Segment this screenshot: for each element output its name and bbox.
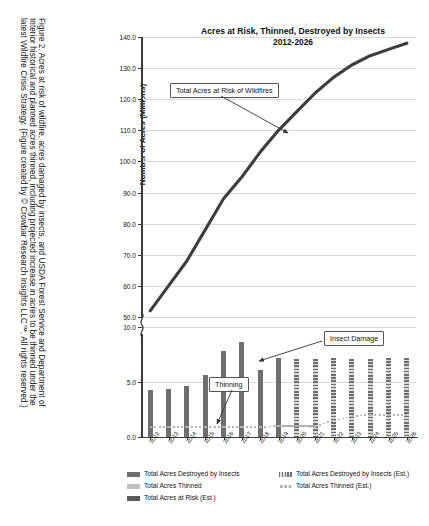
chart-legend: Total Acres Destroyed by InsectsTotal Ac…: [127, 470, 423, 516]
legend-item-2: Total Acres Destroyed by Insects (Est.): [279, 470, 409, 478]
legend-label: Total Acres Thinned (Est.): [296, 482, 371, 490]
legend-swatch-icon: [279, 484, 292, 489]
legend-swatch-icon: [127, 484, 140, 489]
legend-label: Total Acres Thinned: [144, 482, 202, 490]
legend-item-3: Total Acres Thinned: [127, 482, 202, 490]
legend-label: Total Acres Destroyed by Insects: [144, 470, 240, 478]
legend-label: Total Acres at Risk (Est.): [144, 494, 216, 502]
caption-line-3: latest Wildfire Crisis Strategy. (Figure…: [19, 18, 28, 408]
legend-label: Total Acres Destroyed by Insects (Est.): [296, 470, 409, 478]
legend-item-4: Total Acres Thinned (Est.): [279, 482, 371, 490]
caption-line-1: Figure 2. Acres at risk of wildfire, acr…: [37, 18, 46, 407]
figure-root: Figure 2. Acres at risk of wildfire, acr…: [0, 0, 429, 526]
legend-swatch-icon: [127, 472, 140, 477]
annotation-leader-lines: [108, 10, 429, 480]
legend-item-1: Total Acres Destroyed by Insects: [127, 470, 240, 478]
figure-caption: Figure 2. Acres at risk of wildfire, acr…: [0, 0, 108, 526]
legend-swatch-icon: [127, 496, 140, 501]
legend-swatch-icon: [279, 472, 292, 477]
chart-container: Acres at Risk, Thinned, Destroyed by Ins…: [108, 10, 429, 526]
caption-line-2: Interior historical and planned acres th…: [28, 18, 37, 406]
legend-item-5: Total Acres at Risk (Est.): [127, 494, 216, 502]
